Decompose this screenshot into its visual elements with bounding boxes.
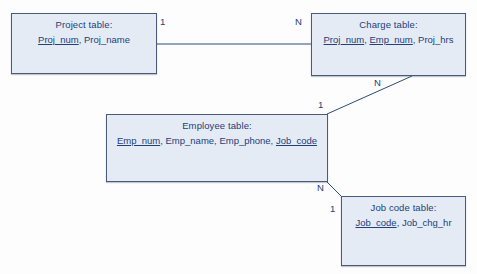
- cardinality-label-job-code-one: 1: [330, 204, 335, 214]
- attribute-proj-hrs: Proj_hrs: [418, 34, 453, 45]
- cardinality-label-charge-many-lower: N: [374, 78, 381, 88]
- attribute-emp-phone: Emp_phone: [219, 135, 270, 146]
- attribute-emp-num-pk: Emp_num: [369, 34, 412, 45]
- attribute-emp-name: Emp_name: [166, 135, 215, 146]
- attribute-proj-name: Proj_name: [84, 34, 130, 45]
- connector-charge-employee: [327, 76, 412, 114]
- attribute-job-code-fk: Job_code: [276, 135, 317, 146]
- cardinality-label-project-one: 1: [160, 17, 165, 27]
- entity-box-project[interactable]: Project table: Proj_num, Proj_name: [11, 13, 157, 74]
- attribute-proj-num-pk: Proj_num: [38, 34, 79, 45]
- entity-attributes-job-code: Job_code, Job_chg_hr: [342, 214, 465, 229]
- entity-title-job-code: Job code table:: [342, 197, 465, 214]
- entity-title-project: Project table:: [12, 14, 156, 31]
- entity-attributes-employee: Emp_num, Emp_name, Emp_phone, Job_code: [107, 132, 327, 147]
- cardinality-label-charge-many: N: [295, 17, 302, 27]
- cardinality-label-employee-one: 1: [318, 100, 323, 110]
- attribute-job-chg-hr: Job_chg_hr: [402, 217, 452, 228]
- attribute-emp-num-pk: Emp_num: [117, 135, 160, 146]
- attribute-job-code-pk: Job_code: [355, 217, 396, 228]
- cardinality-label-employee-many: N: [317, 183, 324, 193]
- attribute-proj-num-pk: Proj_num: [324, 34, 365, 45]
- entity-box-charge[interactable]: Charge table: Proj_num, Emp_num, Proj_hr…: [311, 13, 466, 76]
- connector-employee-jobcode: [327, 182, 342, 197]
- entity-box-employee[interactable]: Employee table: Emp_num, Emp_name, Emp_p…: [106, 114, 328, 182]
- entity-title-charge: Charge table:: [312, 14, 465, 31]
- er-diagram-canvas: Project table: Proj_num, Proj_name Charg…: [0, 0, 477, 274]
- entity-box-job-code[interactable]: Job code table: Job_code, Job_chg_hr: [341, 196, 466, 266]
- entity-attributes-charge: Proj_num, Emp_num, Proj_hrs: [312, 31, 465, 46]
- entity-title-employee: Employee table:: [107, 115, 327, 132]
- entity-attributes-project: Proj_num, Proj_name: [12, 31, 156, 46]
